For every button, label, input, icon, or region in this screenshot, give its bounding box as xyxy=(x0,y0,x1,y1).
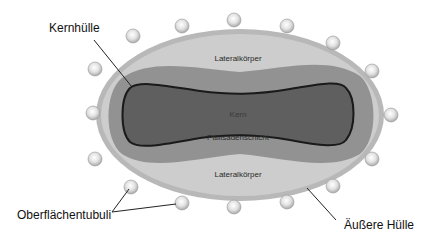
label-kernhulle: Kernhülle xyxy=(49,21,100,35)
label-pallisadenschicht: Pallisadenschicht xyxy=(207,133,269,142)
tubuli-leader-1 xyxy=(112,189,129,212)
label-lateralkorper-bottom: Lateralkörper xyxy=(214,170,261,179)
label-aussere-hulle: Äußere Hülle xyxy=(344,218,414,232)
label-oberflachentubuli: Oberflächentubuli xyxy=(17,208,111,222)
label-lateralkorper-top: Lateralkörper xyxy=(214,54,261,63)
label-kern: Kern xyxy=(230,110,247,119)
tubuli-leader-2 xyxy=(112,204,176,212)
